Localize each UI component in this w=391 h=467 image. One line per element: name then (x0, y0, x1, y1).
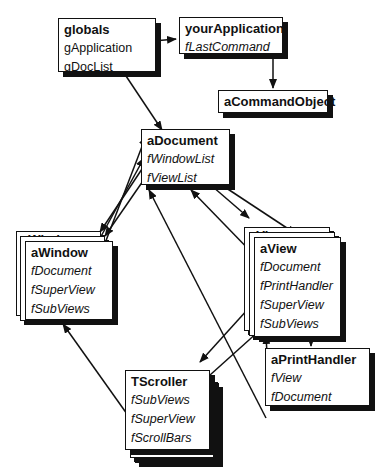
field-fDocument: fDocument (260, 258, 335, 277)
field-fViewList: fViewList (147, 169, 224, 188)
node-yourApplication: yourApplication fLastCommand (179, 17, 283, 54)
field-fView: fView (271, 369, 364, 388)
field-fLastCommand: fLastCommand (185, 38, 277, 57)
node-aCommandObject: aCommandObject (218, 90, 328, 113)
field-fScrollBars: fScrollBars (131, 429, 204, 448)
node-aPrintHandler: aPrintHandler fView fDocument (265, 348, 370, 406)
field-gApplication: gApplication (64, 39, 150, 58)
field-fSuperView: fSuperView (131, 410, 204, 429)
field-fSuperView: fSuperView (31, 281, 107, 300)
field-fDocument: fDocument (271, 388, 364, 407)
node-TScroller: TScroller fSubViews fSuperView fScrollBa… (125, 370, 210, 450)
node-title: yourApplication (185, 20, 277, 38)
node-title: aCommandObject (224, 93, 322, 111)
node-aDocument: aDocument fWindowList fViewList (141, 129, 230, 185)
node-aWindow: aWindow fDocument fSuperView fSubViews (25, 241, 113, 320)
field-fSubViews: fSubViews (31, 300, 107, 319)
field-fPrintHandler: fPrintHandler (260, 277, 335, 296)
node-title: aWindow (31, 244, 107, 262)
field-fWindowList: fWindowList (147, 150, 224, 169)
node-globals: globals gApplication gDocList (58, 18, 156, 72)
field-fSubViews: fSubViews (260, 315, 335, 334)
field-fSuperView: fSuperView (260, 296, 335, 315)
node-title: aPrintHandler (271, 351, 364, 369)
field-fSubViews: fSubViews (131, 391, 204, 410)
node-aView: aView fDocument fPrintHandler fSuperView… (254, 237, 341, 337)
node-title: aView (260, 240, 335, 258)
field-fDocument: fDocument (31, 262, 107, 281)
node-title: globals (64, 21, 150, 39)
node-title: TScroller (131, 373, 204, 391)
node-title: aDocument (147, 132, 224, 150)
field-gDocList: gDocList (64, 58, 150, 77)
